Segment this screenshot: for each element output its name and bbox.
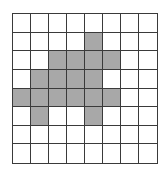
grid-cell-filled bbox=[49, 70, 67, 89]
grid-cell bbox=[121, 70, 139, 89]
grid-cell bbox=[139, 51, 157, 70]
grid-cell bbox=[103, 33, 121, 52]
grid-cell bbox=[85, 144, 103, 163]
grid-cell-filled bbox=[67, 70, 85, 89]
grid-cell-filled bbox=[31, 70, 49, 89]
grid-cell bbox=[121, 89, 139, 108]
grid-cell bbox=[139, 89, 157, 108]
grid-cell bbox=[85, 126, 103, 145]
grid-cell bbox=[49, 144, 67, 163]
grid-cell-filled bbox=[31, 107, 49, 126]
grid-cell bbox=[85, 14, 103, 33]
grid-cell bbox=[49, 126, 67, 145]
grid-cell bbox=[13, 14, 31, 33]
grid-cell bbox=[49, 14, 67, 33]
grid-cell bbox=[31, 51, 49, 70]
grid-cell bbox=[13, 33, 31, 52]
grid-cell-filled bbox=[85, 89, 103, 108]
grid-cell-filled bbox=[103, 51, 121, 70]
grid-cell-filled bbox=[67, 51, 85, 70]
grid-cell bbox=[13, 51, 31, 70]
grid-cell bbox=[13, 144, 31, 163]
grid-cell bbox=[139, 14, 157, 33]
grid-cell bbox=[49, 107, 67, 126]
grid-cell bbox=[67, 14, 85, 33]
grid-cell bbox=[13, 126, 31, 145]
grid-cell bbox=[67, 107, 85, 126]
grid-cell-filled bbox=[85, 107, 103, 126]
grid-cell bbox=[121, 126, 139, 145]
grid-cell bbox=[103, 14, 121, 33]
grid-cell bbox=[121, 33, 139, 52]
grid-cell-filled bbox=[13, 89, 31, 108]
grid-cell bbox=[139, 107, 157, 126]
grid-cell bbox=[139, 144, 157, 163]
grid-cell bbox=[121, 51, 139, 70]
grid-cell bbox=[67, 144, 85, 163]
grid-cell bbox=[103, 126, 121, 145]
grid-cell-filled bbox=[85, 33, 103, 52]
grid-cell-filled bbox=[85, 70, 103, 89]
grid-cell bbox=[103, 144, 121, 163]
grid-cell bbox=[103, 70, 121, 89]
grid-cell bbox=[31, 33, 49, 52]
grid-cell-filled bbox=[49, 51, 67, 70]
grid-cell bbox=[121, 107, 139, 126]
grid-cell bbox=[31, 126, 49, 145]
grid-cell bbox=[139, 33, 157, 52]
grid-cell bbox=[103, 107, 121, 126]
grid-cell bbox=[13, 70, 31, 89]
grid-cell bbox=[67, 126, 85, 145]
grid-cell-filled bbox=[49, 89, 67, 108]
grid-cell-filled bbox=[103, 89, 121, 108]
grid-cell bbox=[139, 126, 157, 145]
grid-cell-filled bbox=[31, 89, 49, 108]
grid-cell bbox=[121, 144, 139, 163]
grid-cell bbox=[31, 144, 49, 163]
grid-cell-filled bbox=[85, 51, 103, 70]
grid-cell bbox=[139, 70, 157, 89]
grid-cell bbox=[13, 107, 31, 126]
grid-cell bbox=[31, 14, 49, 33]
grid-cell bbox=[49, 33, 67, 52]
shaded-grid bbox=[12, 13, 158, 164]
grid-cell bbox=[67, 33, 85, 52]
grid-cell-filled bbox=[67, 89, 85, 108]
grid-cell bbox=[121, 14, 139, 33]
